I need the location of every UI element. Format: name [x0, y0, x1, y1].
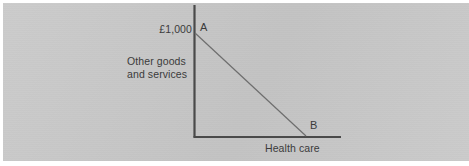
y-axis-title-line1: Other goods: [127, 55, 186, 67]
y-axis-title-line2: and services: [127, 68, 187, 80]
point-a-label: A: [200, 21, 207, 34]
x-axis-title: Health care: [265, 142, 320, 155]
budget-constraint-plot: [0, 0, 469, 166]
budget-constraint-line: [195, 33, 306, 136]
chart-screenshot: £1,000 Other goodsand services Health ca…: [0, 0, 469, 166]
y-intercept-value-label: £1,000: [148, 23, 192, 36]
point-b-label: B: [310, 119, 317, 132]
y-axis-title: Other goodsand services: [127, 55, 187, 80]
